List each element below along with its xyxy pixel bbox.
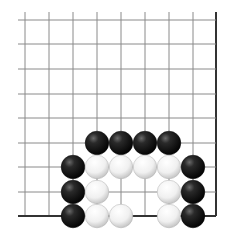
black-stone: [181, 204, 205, 228]
black-stone: [109, 131, 133, 155]
white-stone: [133, 155, 157, 179]
white-stone: [109, 155, 133, 179]
white-stone: [109, 204, 133, 228]
black-stone: [61, 204, 85, 228]
stones-layer: [61, 131, 205, 228]
white-stone: [157, 155, 181, 179]
white-stone: [85, 204, 109, 228]
white-stone: [157, 204, 181, 228]
black-stone: [157, 131, 181, 155]
black-stone: [61, 155, 85, 179]
black-stone: [181, 180, 205, 204]
black-stone: [133, 131, 157, 155]
white-stone: [157, 180, 181, 204]
black-stone: [61, 180, 85, 204]
white-stone: [85, 155, 109, 179]
go-board: [0, 0, 228, 249]
white-stone: [85, 180, 109, 204]
black-stone: [181, 155, 205, 179]
black-stone: [85, 131, 109, 155]
